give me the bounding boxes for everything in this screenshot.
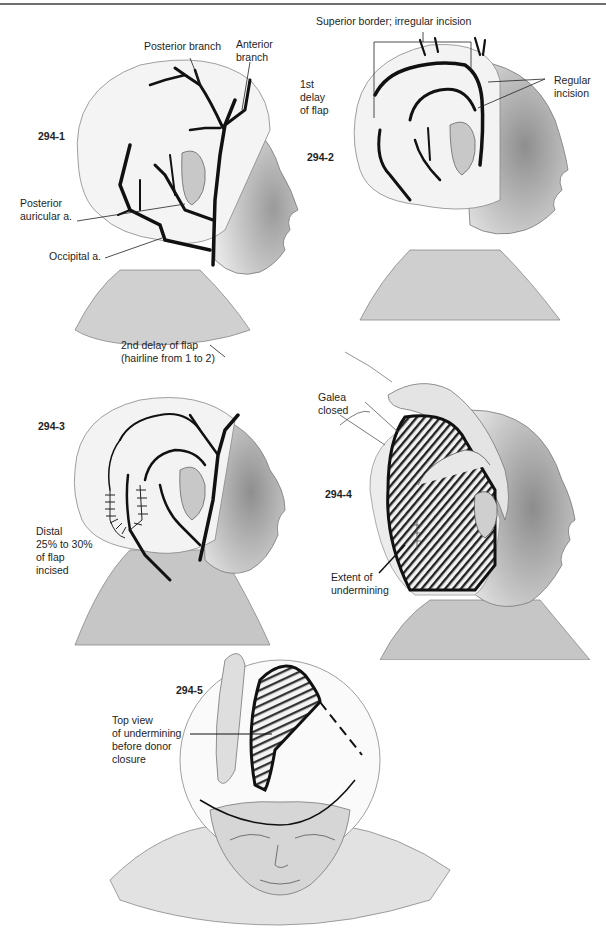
label-regular-incision-line1: Regular	[554, 74, 591, 87]
label-first-delay-line3: of flap	[300, 104, 329, 117]
label-superior-border: Superior border; irregular incision	[316, 15, 471, 28]
label-distal-line4: incised	[36, 564, 69, 577]
figure-294-5: 294-5 Top view of undermining before don…	[100, 640, 460, 928]
figure-number: 294-5	[176, 684, 203, 696]
figure-number: 294-2	[307, 151, 334, 163]
label-distal-line3: of flap	[36, 551, 65, 564]
figure-294-4: Galea closed 294-4 Extent of undermining	[300, 340, 606, 660]
figure-number: 294-4	[325, 488, 352, 500]
label-posterior-branch: Posterior branch	[144, 40, 221, 53]
label-first-delay-line1: 1st	[300, 78, 314, 91]
label-extent-line1: Extent of	[331, 571, 372, 584]
label-second-delay-line1: 2nd delay of flap	[121, 339, 198, 352]
label-regular-incision-line2: incision	[554, 87, 589, 100]
label-distal-line1: Distal	[36, 525, 62, 538]
figure-number: 294-1	[38, 130, 65, 142]
head-illustration-294-4	[300, 340, 606, 660]
label-top-view-line3: before donor	[112, 740, 172, 753]
label-first-delay-line2: delay	[300, 91, 325, 104]
label-extent-line2: undermining	[331, 584, 389, 597]
label-galea-line2: closed	[318, 404, 348, 417]
label-posterior-auricular-line2: auricular a.	[20, 210, 72, 223]
head-illustration-294-2	[300, 0, 606, 330]
label-galea-line1: Galea	[318, 391, 346, 404]
label-occipital: Occipital a.	[49, 250, 101, 263]
label-top-view-line1: Top view	[112, 714, 153, 727]
head-illustration-294-5	[100, 640, 460, 928]
figure-294-1: 294-1 Posterior branch Anterior branch P…	[0, 0, 300, 360]
label-top-view-line2: of undermining	[112, 727, 181, 740]
label-distal-line2: 25% to 30%	[36, 538, 93, 551]
figure-294-3: 294-3 Distal 25% to 30% of flap incised	[0, 360, 300, 650]
label-top-view-line4: closure	[112, 753, 146, 766]
label-anterior-branch-line2: branch	[236, 51, 268, 64]
head-illustration-294-3	[0, 360, 300, 650]
figure-number: 294-3	[38, 420, 65, 432]
label-posterior-auricular-line1: Posterior	[20, 197, 62, 210]
figure-294-2: Superior border; irregular incision 1st …	[300, 0, 606, 330]
label-anterior-branch-line1: Anterior	[236, 38, 273, 51]
